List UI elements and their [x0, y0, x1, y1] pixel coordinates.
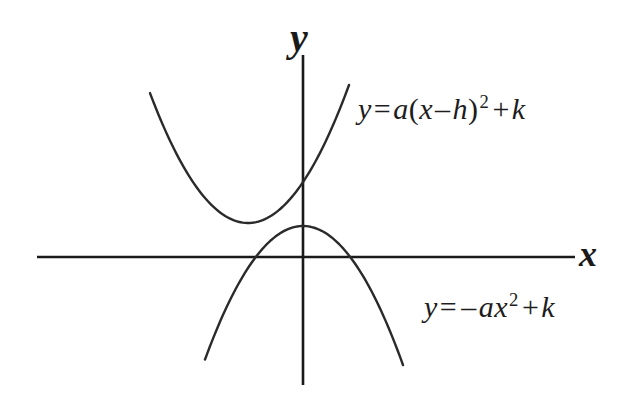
eq2-constant: k [541, 290, 555, 323]
eq1-coefficient: a [393, 92, 409, 125]
upward-parabola-curve [150, 85, 349, 223]
y-axis-label: y [290, 18, 308, 58]
eq2-plus: + [520, 290, 541, 323]
eq1-equals: = [372, 92, 393, 125]
eq2-minus: – [459, 290, 479, 323]
parabola-figure [0, 0, 630, 406]
eq1-constant: k [512, 92, 526, 125]
eq1-exponent: 2 [479, 91, 491, 112]
eq2-equals: = [438, 290, 459, 323]
eq2-variable: x [494, 290, 508, 323]
eq1-variable: x [419, 92, 433, 125]
equation-vertex-form: y=a(x–h)2+k [358, 94, 526, 124]
eq1-open-paren: ( [409, 92, 420, 125]
eq2-lhs: y [424, 290, 438, 323]
equation-negative-form: y=–ax2+k [424, 292, 555, 322]
eq1-lhs: y [358, 92, 372, 125]
eq1-shift: h [453, 92, 469, 125]
eq1-minus: – [433, 92, 453, 125]
eq2-exponent: 2 [508, 289, 520, 310]
eq1-plus: + [490, 92, 511, 125]
eq1-close-paren: ) [468, 92, 479, 125]
figure-canvas: y x y=a(x–h)2+k y=–ax2+k [0, 0, 630, 406]
x-axis-label: x [579, 236, 597, 272]
eq2-coefficient: a [479, 290, 495, 323]
